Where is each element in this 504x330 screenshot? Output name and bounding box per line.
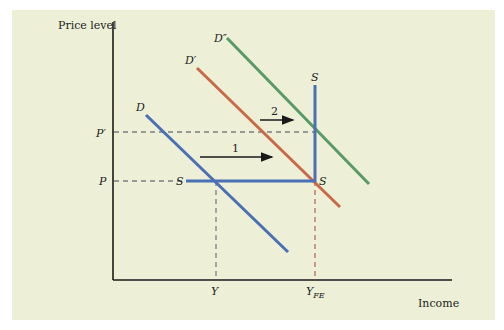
supply-label-corner: S: [319, 175, 327, 188]
shift-label-1: 1: [232, 142, 239, 155]
income-label-y: Y: [211, 285, 220, 298]
curve-label-d-double-prime: D″: [213, 32, 228, 45]
supply-label-top: S: [311, 71, 319, 84]
curve-label-d: D: [135, 101, 145, 114]
price-label-p: P: [98, 175, 107, 188]
supply-curve-s: [186, 85, 315, 181]
y-axis-label: Price level: [58, 19, 117, 32]
aggregate-demand-supply-diagram: Price level Income P′ P Y YFE D D′ D″ S …: [0, 0, 504, 330]
income-label-y-fe: YFE: [306, 285, 325, 300]
income-label-y-fe-subscript: FE: [312, 291, 325, 300]
x-axis-label: Income: [418, 297, 459, 310]
supply-label-left: S: [176, 175, 184, 188]
curve-label-d-prime: D′: [184, 54, 197, 67]
price-label-p-prime: P′: [95, 127, 106, 140]
demand-curve-d-double-prime: [227, 38, 369, 184]
shift-label-2: 2: [271, 105, 278, 118]
